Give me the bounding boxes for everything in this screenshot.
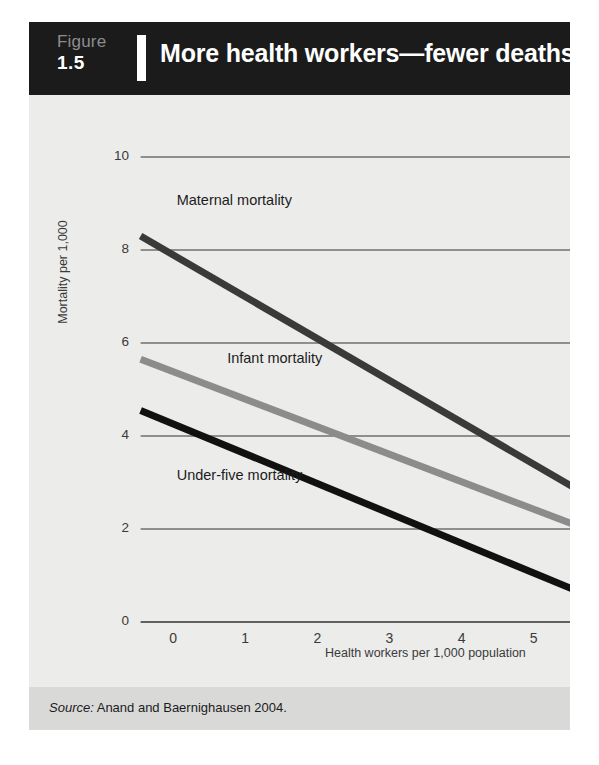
x-tick-label: 3 — [374, 630, 404, 646]
series-label: Infant mortality — [227, 350, 322, 366]
y-tick-label: 8 — [89, 241, 129, 256]
chart-plot-area: Mortality per 1,000 Health workers per 1… — [29, 95, 570, 687]
y-tick-label: 0 — [89, 613, 129, 628]
y-tick-label: 2 — [89, 520, 129, 535]
y-tick-label: 10 — [89, 148, 129, 163]
x-tick-label: 2 — [302, 630, 332, 646]
gridlines — [141, 157, 570, 622]
source-citation: Anand and Baernighausen 2004. — [94, 700, 287, 715]
figure-number-label: 1.5 — [57, 53, 125, 73]
x-tick-label: 1 — [230, 630, 260, 646]
figure-header-bar: Figure 1.5 More health workers—fewer dea… — [29, 22, 570, 95]
series-label: Under-five mortality — [177, 467, 303, 483]
line-chart-svg — [29, 95, 570, 687]
figure-number-block: Figure 1.5 — [57, 33, 125, 73]
x-axis-title: Health workers per 1,000 population — [325, 646, 526, 660]
figure-title: More health workers—fewer deaths — [160, 39, 570, 68]
source-band: Source: Anand and Baernighausen 2004. — [29, 687, 570, 730]
header-divider-bar — [137, 35, 146, 81]
x-tick-label: 4 — [447, 630, 477, 646]
x-tick-label: 0 — [158, 630, 188, 646]
figure-card: Figure 1.5 More health workers—fewer dea… — [29, 22, 570, 730]
series-line — [141, 236, 570, 487]
figure-word-label: Figure — [57, 33, 125, 51]
series-label: Maternal mortality — [177, 192, 292, 208]
y-tick-label: 4 — [89, 427, 129, 442]
y-tick-label: 6 — [89, 334, 129, 349]
source-note: Source: Anand and Baernighausen 2004. — [49, 700, 287, 715]
series-lines — [141, 236, 570, 589]
source-prefix: Source: — [49, 700, 94, 715]
y-axis-title: Mortality per 1,000 — [56, 192, 70, 352]
x-tick-label: 5 — [519, 630, 549, 646]
